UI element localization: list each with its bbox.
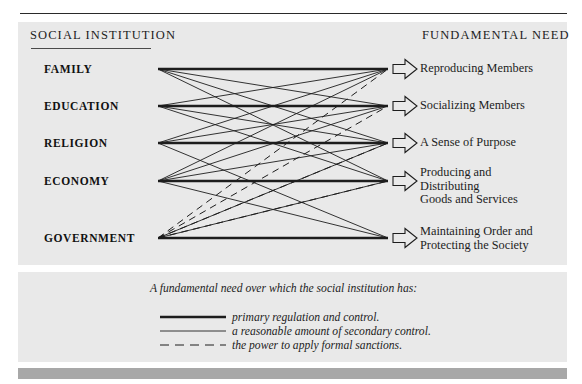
legend-label-primary: primary regulation and control. bbox=[232, 311, 379, 324]
institution-label-education: EDUCATION bbox=[44, 100, 119, 112]
column-header-underline bbox=[31, 48, 151, 49]
column-header-fundamental-need: FUNDAMENTAL NEED bbox=[422, 28, 570, 43]
bottom-bar bbox=[18, 368, 567, 379]
institution-label-family: FAMILY bbox=[44, 63, 92, 75]
arrow-icon-reproducing bbox=[392, 58, 418, 80]
top-horizontal-rule bbox=[20, 13, 567, 14]
need-label-socializing: Socializing Members bbox=[420, 99, 525, 113]
legend-label-secondary: a reasonable amount of secondary control… bbox=[232, 325, 431, 338]
column-header-social-institution: SOCIAL INSTITUTION bbox=[30, 28, 176, 43]
institution-label-government: GOVERNMENT bbox=[44, 232, 135, 244]
arrow-icon-purpose bbox=[392, 132, 418, 154]
legend-sample-primary bbox=[160, 313, 230, 321]
need-label-purpose: A Sense of Purpose bbox=[420, 136, 516, 150]
arrow-icon-producing bbox=[392, 170, 418, 192]
legend-label-sanctions: the power to apply formal sanctions. bbox=[232, 339, 402, 352]
legend-sample-secondary bbox=[160, 327, 230, 335]
need-label-order: Maintaining Order and Protecting the Soc… bbox=[420, 225, 533, 252]
legend-title: A fundamental need over which the social… bbox=[150, 282, 417, 295]
figure-canvas: SOCIAL INSTITUTION FUNDAMENTAL NEED FAMI… bbox=[0, 0, 582, 384]
institution-label-religion: RELIGION bbox=[44, 137, 108, 149]
institution-label-economy: ECONOMY bbox=[44, 175, 110, 187]
need-label-producing: Producing and Distributing Goods and Ser… bbox=[420, 166, 518, 207]
legend-sample-sanctions bbox=[160, 341, 230, 349]
need-label-reproducing: Reproducing Members bbox=[420, 62, 533, 76]
arrow-icon-socializing bbox=[392, 95, 418, 117]
arrow-icon-order bbox=[392, 227, 418, 249]
